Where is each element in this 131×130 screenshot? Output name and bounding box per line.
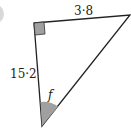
triangle-figure: 3·8 15·2 f [0,0,131,130]
triangle-diagram: 3·8 15·2 f [0,0,131,130]
partial-circle-marker [0,4,4,24]
side-label-left: 15·2 [10,67,37,81]
angle-f-arc [41,102,59,126]
right-angle-marker [34,22,45,35]
angle-label-f: f [47,88,55,102]
side-label-top: 3·8 [74,4,93,18]
